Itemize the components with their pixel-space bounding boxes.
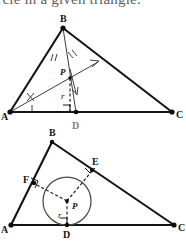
angle-tick-b-2 bbox=[55, 54, 57, 61]
radius-pf bbox=[35, 184, 67, 201]
angle-tick-b-3 bbox=[68, 52, 73, 58]
triangle-side-bc bbox=[52, 142, 174, 225]
vertex-dot-p bbox=[68, 76, 72, 80]
vertex-label-b: B bbox=[60, 13, 67, 24]
vertex-label-a: A bbox=[1, 224, 9, 235]
vertex-dot-b bbox=[60, 25, 65, 30]
point-label-p: P bbox=[60, 67, 66, 77]
angle-tick-b-4 bbox=[72, 50, 77, 56]
vertex-label-c: C bbox=[176, 109, 183, 120]
page-heading-strip: circle in a given triangle. bbox=[0, 0, 186, 11]
vertex-dot-p bbox=[65, 199, 69, 203]
figure-inscribed-circle-result: A B C D E F P r bbox=[0, 121, 186, 245]
vertex-label-f: F bbox=[23, 174, 29, 185]
radius-label-r: r bbox=[61, 91, 65, 101]
vertex-dot-e bbox=[90, 168, 94, 172]
triangle-side-bc bbox=[63, 28, 172, 112]
vertex-label-d: D bbox=[63, 229, 70, 240]
radius-pe bbox=[67, 171, 92, 201]
vertex-dot-b bbox=[50, 140, 54, 144]
vertex-label-c: C bbox=[178, 222, 185, 233]
vertex-dot-a bbox=[8, 222, 13, 227]
point-label-p: P bbox=[72, 201, 78, 211]
angle-tick-b-1 bbox=[51, 54, 53, 61]
radius-label-r: r bbox=[58, 210, 62, 220]
triangle-side-ab bbox=[10, 28, 63, 112]
vertex-dot-c bbox=[169, 109, 174, 114]
vertex-dot-c bbox=[171, 222, 176, 227]
vertex-dot-d bbox=[74, 110, 79, 115]
bisector-from-a bbox=[10, 62, 98, 112]
vertex-label-e: E bbox=[92, 156, 99, 167]
vertex-label-b: B bbox=[49, 127, 56, 138]
vertex-dot-f bbox=[32, 181, 36, 185]
figure-page: circle in a given triangle. bbox=[0, 0, 186, 245]
vertex-dot-d bbox=[65, 223, 69, 227]
page-heading-text: circle in a given triangle. bbox=[0, 0, 186, 8]
figure-angle-bisector-construction: A B C P r bbox=[0, 11, 186, 121]
vertex-label-a: A bbox=[1, 111, 9, 121]
